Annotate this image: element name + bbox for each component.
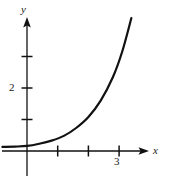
y-tick-label-2: 2 — [9, 82, 15, 93]
x-axis-label: x — [153, 145, 158, 156]
math-graph-figure: y x 2 3 — [0, 0, 172, 179]
y-axis-label: y — [21, 4, 26, 15]
exponential-curve — [2, 18, 131, 147]
x-tick-label-3: 3 — [114, 156, 120, 167]
graph-canvas — [0, 0, 172, 179]
